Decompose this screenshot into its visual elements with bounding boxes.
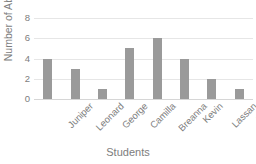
x-axis-tick-labels: JuniperLeonardGeorgeCamillaBreannaKevinL… — [34, 101, 253, 141]
y-axis-tick-label: 8 — [18, 13, 30, 23]
chart-title — [0, 0, 256, 1]
x-axis-tick-label: Leonard — [94, 101, 126, 133]
gridline — [34, 38, 253, 39]
gridline — [34, 59, 253, 60]
y-axis-tick-label: 0 — [18, 94, 30, 104]
bar[interactable] — [180, 59, 189, 100]
bar[interactable] — [43, 59, 52, 100]
y-axis-tick-label: 6 — [18, 33, 30, 43]
gridline — [34, 18, 253, 19]
x-axis-tick-label: George — [121, 101, 150, 130]
y-axis-tick-label: 2 — [18, 74, 30, 84]
gridline — [34, 79, 253, 80]
x-axis-tick-label: Lassan — [230, 101, 256, 130]
x-axis-title: Students — [0, 146, 256, 159]
bar[interactable] — [207, 79, 216, 99]
y-axis-title: Number of Absences — [2, 0, 15, 65]
bar[interactable] — [125, 48, 134, 99]
x-axis-line — [34, 99, 253, 100]
x-axis-tick-label: Camilla — [148, 101, 177, 130]
x-axis-tick-label: Juniper — [66, 101, 95, 130]
bar[interactable] — [98, 89, 107, 99]
bar[interactable] — [235, 89, 244, 99]
y-axis-tick-label: 4 — [18, 54, 30, 64]
bar[interactable] — [153, 38, 162, 99]
y-axis-tick-labels: 02468 — [16, 18, 30, 99]
plot-area — [34, 18, 253, 99]
bar[interactable] — [71, 69, 80, 99]
bar-chart: Number of Absences 02468 JuniperLeonardG… — [0, 0, 256, 164]
